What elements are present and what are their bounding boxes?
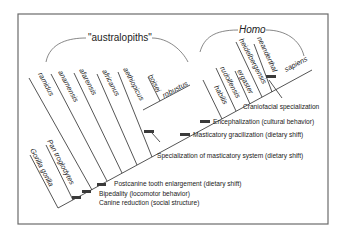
- homo-label: Homo: [239, 24, 266, 35]
- taxon-robustus: robustus: [161, 79, 190, 100]
- taxon-boisei: boisei: [146, 73, 163, 94]
- australopiths-arc-left: [46, 38, 86, 62]
- trait-mark-postcanine: [97, 183, 106, 186]
- trait-mark-bipedality: [82, 190, 91, 193]
- annotation-masticatory-spec: Specialization of masticatory system (di…: [157, 152, 303, 160]
- taxon-africanus: africanus: [100, 68, 122, 98]
- annotation-canine: Canine reduction (social structure): [99, 199, 199, 207]
- annotation-masticatory-grac: Masticatory gracilization (dietary shift…: [193, 131, 303, 139]
- annotation-craniofacial: Craniofacial specialization: [243, 103, 320, 111]
- annotation-bipedality: Bipedality (locomotor behavior): [99, 190, 190, 198]
- trait-mark-masticatory-spec: [144, 130, 154, 133]
- taxon-afarensis: afarensis: [77, 67, 99, 97]
- homo-arc-left: [200, 30, 238, 52]
- trait-mark-canine: [72, 196, 81, 199]
- taxon-aethiopicus: aethiopicus: [121, 66, 146, 103]
- taxon-sapiens: sapiens: [283, 54, 309, 74]
- trait-mark-encephalization: [200, 120, 210, 123]
- taxon-anamensis: anamensis: [56, 69, 80, 104]
- australopiths-arc-right: [152, 38, 188, 62]
- taxon-habilis: habilis: [212, 84, 230, 107]
- annotation-postcanine: Postcanine tooth enlargement (dietary sh…: [114, 180, 242, 188]
- taxon-ramidus: ramidus: [36, 71, 56, 98]
- leader-masticatory-spec: [152, 133, 160, 142]
- cladogram: "australopiths" Homo Gorilla gorilla Pan…: [0, 0, 341, 237]
- trait-mark-masticatory-grac: [180, 133, 190, 136]
- trait-mark-craniofacial: [266, 75, 276, 78]
- annotation-encephalization: Encephalization (cultural behavior): [213, 118, 314, 126]
- australopiths-label: "australopiths": [88, 32, 152, 43]
